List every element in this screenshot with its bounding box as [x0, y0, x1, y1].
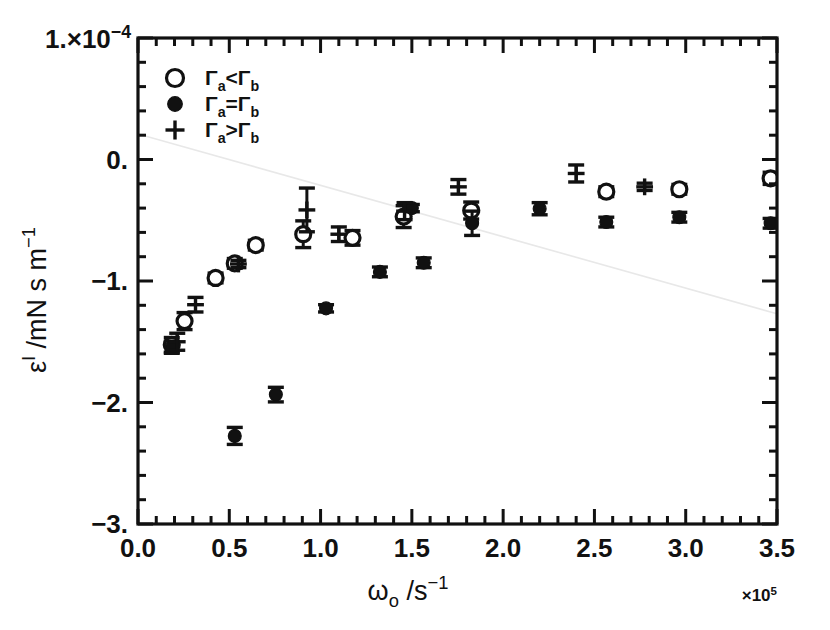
marker-filled-circle	[373, 265, 386, 278]
legend-label: Γa<Γb	[205, 66, 259, 94]
legend-entry: Γa=Γb	[168, 92, 260, 120]
y-axis-title: εI /mN s m−1	[18, 227, 52, 373]
marker-open-circle	[672, 182, 687, 197]
y-axis-exponent-label: 1.×10−4	[45, 22, 131, 54]
x-tick-label: 1.0	[302, 533, 338, 563]
x-axis-multiplier-label: ×105	[742, 585, 778, 605]
x-axis-title: ωo /s−1	[368, 572, 449, 611]
y-tick-label: −3.	[91, 509, 128, 539]
y-tick-label: −1.	[91, 266, 128, 296]
x-tick-label: 3.0	[668, 533, 704, 563]
legend-entry: Γa<Γb	[167, 66, 260, 94]
x-tick-label: 2.5	[576, 533, 612, 563]
marker-open-circle	[177, 314, 192, 329]
x-tick-label: 1.5	[394, 533, 430, 563]
marker-open-circle	[167, 70, 184, 87]
marker-filled-circle	[600, 216, 613, 229]
marker-filled-circle	[673, 211, 686, 224]
legend-label: Γa>Γb	[205, 118, 259, 146]
legend: Γa<ΓbΓa=ΓbΓa>Γb	[165, 66, 259, 146]
series-open-circle	[164, 171, 779, 352]
marker-filled-circle	[466, 217, 479, 230]
scatter-plot: 0.00.51.01.52.02.53.03.5 0.−1.−2.−3. 1.×…	[0, 0, 830, 630]
marker-filled-circle	[533, 202, 546, 215]
marker-open-circle	[208, 270, 223, 285]
marker-filled-circle	[320, 302, 333, 315]
marker-open-circle	[599, 184, 614, 199]
marker-open-circle	[248, 238, 263, 253]
legend-entry: Γa>Γb	[165, 118, 259, 146]
marker-filled-circle	[228, 429, 241, 442]
data-points-group	[164, 165, 779, 444]
figure-container: 0.00.51.01.52.02.53.03.5 0.−1.−2.−3. 1.×…	[0, 0, 830, 630]
marker-open-circle	[345, 230, 360, 245]
y-tick-labels: 0.−1.−2.−3.	[91, 145, 128, 540]
x-tick-label: 3.5	[759, 533, 795, 563]
x-tick-label: 0.5	[211, 533, 247, 563]
y-tick-label: −2.	[91, 388, 128, 418]
marker-filled-circle	[417, 256, 430, 269]
x-tick-label: 2.0	[485, 533, 521, 563]
marker-filled-circle	[168, 97, 183, 112]
x-tick-labels: 0.00.51.01.52.02.53.03.5	[120, 533, 795, 563]
marker-filled-circle	[269, 388, 282, 401]
marker-filled-circle	[764, 217, 777, 230]
y-tick-label: 0.	[106, 145, 128, 175]
legend-label: Γa=Γb	[205, 92, 259, 120]
marker-open-circle	[296, 227, 311, 242]
